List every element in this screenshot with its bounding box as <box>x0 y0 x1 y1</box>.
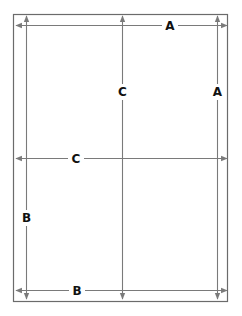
dimension-top-A: A <box>16 19 227 33</box>
dimension-middle-C: C <box>16 152 227 166</box>
dimension-label: A <box>165 19 175 33</box>
dimension-left-B: B <box>22 16 31 299</box>
dimension-label: B <box>22 211 31 225</box>
dimension-diagram: AACCBB <box>0 0 242 316</box>
dimension-center-C: C <box>118 16 127 299</box>
dimension-right-A: A <box>213 16 223 299</box>
dimension-label: C <box>72 152 81 166</box>
dimension-label: A <box>213 85 223 99</box>
dimension-bottom-B: B <box>16 284 227 298</box>
dimension-label: B <box>72 284 81 298</box>
dimension-label: C <box>118 85 127 99</box>
